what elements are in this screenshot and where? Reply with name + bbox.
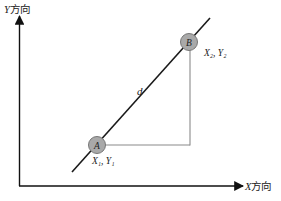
x-axis-label: X方向 [244, 180, 271, 192]
point-a-coords: X₁, Y₁ [91, 156, 114, 166]
point-b-name: B [186, 38, 192, 48]
point-a: A X₁, Y₁ [89, 137, 115, 167]
distance-diagram: Y方向 X方向 d A X₁, Y₁ B X₂, Y₂ [0, 0, 281, 201]
point-a-name: A [93, 141, 100, 151]
y-axis-label: Y方向 [4, 3, 30, 15]
distance-label: d [137, 85, 143, 97]
point-b-coords: X₂, Y₂ [203, 48, 227, 58]
point-b: B X₂, Y₂ [181, 34, 228, 59]
